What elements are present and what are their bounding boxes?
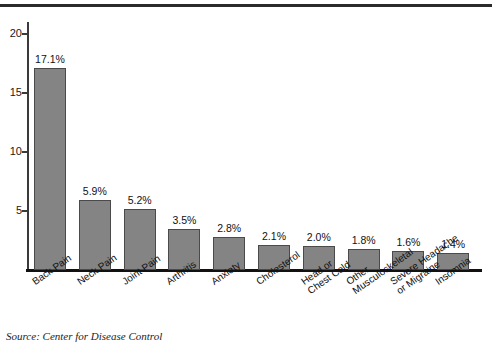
y-tick-label-text: 20 xyxy=(0,28,22,39)
y-tick-mark xyxy=(22,92,27,94)
plot-area: 5101520 17.1%5.9%5.2%3.5%2.8%2.1%2.0%1.8… xyxy=(0,0,492,351)
bar-value-label: 2.8% xyxy=(205,222,253,234)
y-tick-label-text: 5 xyxy=(0,205,22,216)
bar-value-label: 2.0% xyxy=(295,231,343,243)
bar-value-label: 2.1% xyxy=(250,230,298,242)
y-tick-label-text: 15 xyxy=(0,87,22,98)
y-tick-label: 15 xyxy=(0,87,22,98)
y-tick-label: 20 xyxy=(0,28,22,39)
y-tick-mark xyxy=(22,210,27,212)
bar-value-label: 5.9% xyxy=(71,185,119,197)
y-tick-label-text: 10 xyxy=(0,146,22,157)
source-caption: Source: Center for Disease Control xyxy=(6,330,162,342)
y-tick-label: 5 xyxy=(0,205,22,216)
bar xyxy=(34,68,66,270)
y-tick-mark xyxy=(22,151,27,153)
bar-chart: 5101520 17.1%5.9%5.2%3.5%2.8%2.1%2.0%1.8… xyxy=(0,0,492,351)
bar-value-label: 1.8% xyxy=(340,234,388,246)
bar-value-label: 5.2% xyxy=(116,194,164,206)
y-tick-mark xyxy=(22,33,27,35)
bar-value-label: 3.5% xyxy=(160,214,208,226)
y-tick-label: 10 xyxy=(0,146,22,157)
bar-value-label: 17.1% xyxy=(26,53,74,65)
